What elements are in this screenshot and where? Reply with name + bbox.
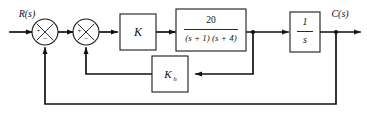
inner-sum-minus-sign: − — [84, 34, 89, 43]
outer-sum-minus-sign: − — [43, 34, 48, 43]
plant-denominator: (s + 1) (s + 4) — [185, 33, 236, 43]
rate-feedback-block-label: K — [163, 68, 172, 80]
gain-block[interactable]: K — [120, 14, 156, 50]
plant-transfer-function-block[interactable]: 20 (s + 1) (s + 4) — [176, 9, 246, 51]
inner-summing-junction[interactable]: + − — [73, 19, 99, 45]
block-diagram-svg: + − + − K 20 (s + 1) (s + 4) 1 s — [0, 0, 367, 116]
inner-sum-plus-sign: + — [78, 27, 82, 35]
output-label: C(s) — [331, 8, 349, 20]
node-output-tap — [334, 30, 338, 34]
rate-feedback-block[interactable]: K h — [152, 56, 188, 92]
integrator-denominator: s — [303, 34, 307, 45]
gain-block-label: K — [133, 25, 143, 39]
input-label: R(s) — [18, 8, 36, 20]
integrator-numerator: 1 — [303, 16, 308, 27]
wire-kh-to-inner-sum — [86, 48, 152, 74]
block-diagram-canvas: + − + − K 20 (s + 1) (s + 4) 1 s — [0, 0, 367, 116]
outer-sum-plus-sign: + — [37, 27, 41, 35]
integrator-block[interactable]: 1 s — [290, 12, 320, 52]
plant-numerator: 20 — [206, 15, 216, 25]
node-plant-output-tap — [251, 30, 255, 34]
rate-feedback-block-subscript: h — [173, 75, 177, 83]
outer-summing-junction[interactable]: + − — [32, 19, 58, 45]
